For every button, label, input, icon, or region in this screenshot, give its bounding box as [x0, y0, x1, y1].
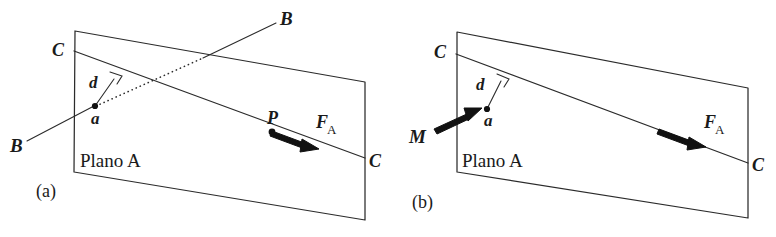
label-force-fa-a: F A	[315, 112, 337, 137]
label-a-b: a	[484, 111, 493, 130]
distance-segment-d-b	[487, 81, 501, 109]
panel-a: C C B B d a P F A Plano A (a)	[9, 8, 382, 220]
label-c-right-a: C	[369, 151, 382, 171]
label-d-a: d	[89, 73, 98, 92]
line-bb-upper-segment-a	[203, 23, 276, 58]
plane-label-b: Plano A	[462, 150, 523, 171]
label-force-fa-b: F A	[703, 112, 725, 137]
caption-a: (a)	[36, 181, 56, 202]
label-moment-m-b: M	[408, 126, 427, 147]
panel-b: C C d a M F A Plano A (b)	[408, 32, 765, 218]
line-cc-a	[74, 51, 365, 158]
caption-b: (b)	[412, 192, 433, 213]
line-bb-lower-segment-a	[27, 106, 94, 141]
force-vector-fa-b	[657, 129, 706, 150]
force-subscript-a: A	[327, 122, 337, 137]
label-c-left-b: C	[434, 42, 447, 62]
force-vector-fa-a	[270, 131, 319, 152]
label-b-lower-a: B	[9, 135, 23, 156]
label-c-right-b: C	[752, 155, 765, 175]
figure-container: C C B B d a P F A Plano A (a)	[0, 0, 776, 237]
label-p-a: P	[266, 108, 279, 128]
plane-label-a: Plano A	[80, 150, 141, 171]
label-a-a: a	[91, 109, 100, 128]
label-d-b: d	[476, 75, 485, 94]
moment-vector-m-b	[434, 108, 482, 134]
label-c-left-a: C	[52, 40, 65, 60]
label-b-upper-a: B	[279, 8, 293, 29]
force-subscript-b: A	[715, 122, 725, 137]
